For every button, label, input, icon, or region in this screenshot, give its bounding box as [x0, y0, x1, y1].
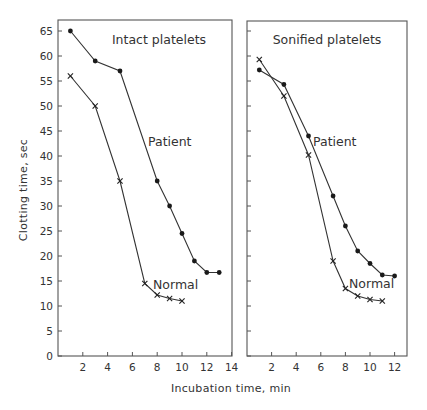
series-label-normal: Normal	[349, 276, 394, 291]
dot-marker-icon	[355, 249, 360, 254]
y-tick-label: 40	[40, 150, 53, 162]
dot-marker-icon	[217, 270, 222, 275]
y-tick-label: 10	[40, 300, 53, 312]
cross-marker-icon	[68, 73, 73, 78]
y-tick-label: 60	[40, 50, 53, 62]
y-tick-label: 35	[40, 175, 53, 187]
series-line-patient	[70, 31, 219, 273]
x-tick-label: 10	[175, 361, 188, 373]
y-tick-label: 25	[40, 225, 53, 237]
y-tick-label: 30	[40, 200, 53, 212]
series-line-normal	[259, 60, 382, 302]
y-tick-label: 50	[40, 100, 53, 112]
x-axis-label: Incubation time, min	[171, 382, 291, 395]
x-tick-label: 2	[268, 361, 275, 373]
x-tick-label: 6	[317, 361, 324, 373]
panel-intact-platelets: Intact platelets Patient Normal 05101520…	[40, 20, 239, 373]
y-tick-label: 55	[40, 75, 53, 87]
series-line-normal	[70, 76, 182, 301]
dot-marker-icon	[331, 194, 336, 199]
y-tick-label: 5	[46, 325, 53, 337]
y-tick-label: 15	[40, 275, 53, 287]
dot-marker-icon	[343, 224, 348, 229]
dot-marker-icon	[180, 231, 185, 236]
dot-marker-icon	[167, 204, 172, 209]
panel-title: Sonified platelets	[273, 32, 382, 47]
dot-marker-icon	[392, 274, 397, 279]
y-tick-label: 45	[40, 125, 53, 137]
dot-marker-icon	[282, 82, 287, 87]
plot-frame	[247, 21, 407, 356]
plot-frame	[58, 20, 232, 356]
y-tick-label: 65	[40, 25, 53, 37]
x-tick-label: 8	[342, 361, 349, 373]
dot-marker-icon	[380, 273, 385, 278]
dot-marker-icon	[257, 68, 262, 73]
x-tick-label: 12	[388, 361, 401, 373]
y-tick-label: 20	[40, 250, 53, 262]
dot-marker-icon	[192, 259, 197, 264]
cross-marker-icon	[343, 286, 348, 291]
y-tick-label: 0	[46, 350, 53, 362]
dot-marker-icon	[118, 69, 123, 74]
x-tick-label: 4	[104, 361, 111, 373]
cross-marker-icon	[93, 103, 98, 108]
x-tick-label: 8	[154, 361, 161, 373]
series-line-patient	[259, 70, 394, 276]
dot-marker-icon	[155, 179, 160, 184]
dot-marker-icon	[306, 134, 311, 139]
cross-marker-icon	[257, 57, 262, 62]
dot-marker-icon	[368, 261, 373, 266]
series-label-patient: Patient	[148, 134, 192, 149]
chart-canvas: Clotting time, sec Incubation time, min …	[0, 0, 427, 410]
panel-sonified-platelets: Sonified platelets Patient Normal 246810…	[247, 21, 407, 373]
cross-marker-icon	[281, 93, 286, 98]
panel-title: Intact platelets	[112, 32, 206, 47]
x-tick-label: 2	[79, 361, 86, 373]
x-tick-label: 12	[200, 361, 213, 373]
series-label-normal: Normal	[153, 277, 198, 292]
dot-marker-icon	[68, 29, 73, 34]
x-tick-label: 6	[129, 361, 136, 373]
dot-marker-icon	[204, 270, 209, 275]
x-tick-label: 14	[225, 361, 239, 373]
y-axis-label: Clotting time, sec	[17, 139, 30, 241]
clotting-time-figure: Clotting time, sec Incubation time, min …	[0, 0, 427, 410]
series-label-patient: Patient	[313, 134, 357, 149]
x-tick-label: 4	[293, 361, 300, 373]
dot-marker-icon	[93, 59, 98, 64]
x-tick-label: 10	[363, 361, 376, 373]
